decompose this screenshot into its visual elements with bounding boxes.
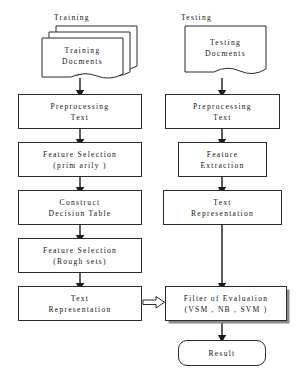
node-text-representation-right-line2: Representation xyxy=(191,208,254,219)
node-feature-selection-primarily-line1: Feature Selection xyxy=(43,149,117,160)
node-feature-selection-rough-sets[interactable]: Feature Selection (Rough sets) xyxy=(18,238,142,273)
node-text-representation-left-line2: Representation xyxy=(48,304,111,315)
node-preprocessing-text-right[interactable]: Preprocessing Text xyxy=(165,94,280,129)
node-text-representation-right[interactable]: Text Representation xyxy=(163,190,282,225)
node-feature-selection-rough-sets-line1: Feature Selection xyxy=(43,245,117,256)
connector-textrep-to-evaluation-block-arrow xyxy=(143,297,165,309)
node-filter-of-evaluation-line1: Filter of Evaluation xyxy=(184,293,268,304)
node-text-representation-left-line1: Text xyxy=(71,293,89,304)
node-construct-decision-table[interactable]: Construct Decision Table xyxy=(18,190,142,225)
testing-label: Testing xyxy=(181,13,212,22)
node-filter-of-evaluation-line2: (VSM , NB , SVM ) xyxy=(184,304,267,315)
testing-doc-sheet xyxy=(185,26,266,74)
node-feature-selection-rough-sets-line2: (Rough sets) xyxy=(53,256,107,267)
node-feature-selection-primarily[interactable]: Feature Selection (prim arily ) xyxy=(18,142,142,177)
training-doc-sheet-1 xyxy=(42,38,123,78)
node-text-representation-left[interactable]: Text Representation xyxy=(18,286,142,321)
node-result-label: Result xyxy=(209,348,236,359)
node-result[interactable]: Result xyxy=(178,340,266,366)
node-construct-decision-table-line2: Decision Table xyxy=(48,208,111,219)
node-preprocessing-text-left[interactable]: Preprocessing Text xyxy=(18,94,142,129)
node-feature-extraction-line1: Feature xyxy=(207,149,239,160)
node-preprocessing-text-right-line1: Preprocessing xyxy=(193,101,252,112)
node-filter-of-evaluation[interactable]: Filter of Evaluation (VSM , NB , SVM ) xyxy=(165,286,287,321)
testing-documents-shape[interactable]: Testing Docments xyxy=(182,24,274,82)
node-preprocessing-text-left-line2: Text xyxy=(71,112,89,123)
node-construct-decision-table-line1: Construct xyxy=(60,197,101,208)
node-feature-extraction-line2: Extraction xyxy=(200,160,244,171)
node-feature-selection-primarily-line2: (prim arily ) xyxy=(53,160,106,171)
node-preprocessing-text-left-line1: Preprocessing xyxy=(51,101,110,112)
training-label: Training xyxy=(54,13,90,22)
node-feature-extraction[interactable]: Feature Extraction xyxy=(178,142,267,177)
training-documents-stack[interactable]: Training Docments xyxy=(38,24,148,82)
node-text-representation-right-line1: Text xyxy=(213,197,231,208)
node-preprocessing-text-right-line2: Text xyxy=(213,112,231,123)
